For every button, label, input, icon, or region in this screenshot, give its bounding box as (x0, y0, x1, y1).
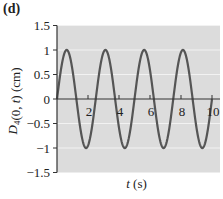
y-axis-ticks: 1.510.50−0.5−1−1.5 (26, 18, 57, 180)
y-tick-label: 0 (44, 92, 51, 107)
x-tick-label: 6 (148, 104, 155, 119)
x-tick-label: 2 (86, 104, 93, 119)
y-tick-label: 0.5 (34, 67, 50, 82)
x-axis-label: t (s) (0, 176, 223, 192)
y-tick-label: −1 (36, 141, 50, 156)
x-tick-label: 8 (179, 104, 186, 119)
y-tick-label: −0.5 (26, 116, 50, 131)
y-axis-label: D4(0, t) (cm) (5, 68, 23, 136)
svg-text:D4(0, t) (cm): D4(0, t) (cm) (5, 68, 23, 136)
y-tick-label: 1.5 (34, 18, 50, 33)
chart: 1.510.50−0.5−1−1.5 246810 D4(0, t) (cm) (0, 0, 223, 199)
x-tick-label: 4 (117, 104, 124, 119)
y-tick-label: 1 (44, 43, 51, 58)
x-tick-label: 10 (207, 104, 220, 119)
